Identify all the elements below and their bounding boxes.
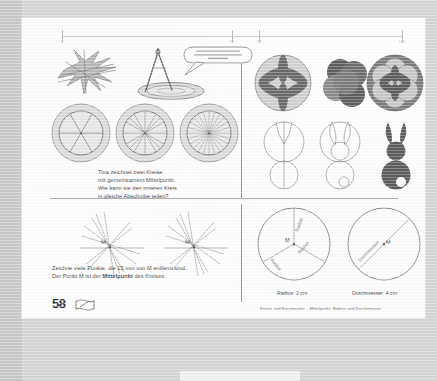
task-line-4: in gleiche Abschnitte teilen? xyxy=(98,192,233,200)
instruction-text-block: Zeichne viele Punkte, die 15 mm von M en… xyxy=(52,264,242,280)
page-number: 58 xyxy=(52,296,66,311)
scribble-star-illustration xyxy=(54,48,124,98)
left-gutter-shadow xyxy=(0,0,22,381)
instruction-line-2b: des Kreises. xyxy=(133,273,166,279)
divider-vertical-bottom xyxy=(241,204,242,302)
radius-circle-diagram: M Radius Radius Radius xyxy=(258,208,330,280)
wheel-12-spokes xyxy=(116,104,174,162)
svg-text:Radius: Radius xyxy=(294,217,304,233)
svg-text:M: M xyxy=(285,237,290,243)
screenshot-viewer: 0 50 58 100 xyxy=(0,0,437,381)
instruction-line-2: Der Punkt M ist der Mittelpunkt des Krei… xyxy=(52,272,242,280)
three-overlapping-circles-pattern xyxy=(323,59,367,107)
rabbit-filled xyxy=(382,122,411,190)
wheel-6-spokes xyxy=(52,104,110,162)
circle-pattern-row-1 xyxy=(254,52,424,118)
wheel-24-spokes xyxy=(180,104,238,162)
diameter-caption: Durchmesser: 4 cm xyxy=(352,290,397,296)
hand-pencil-icon xyxy=(74,298,96,312)
task-line-1: Tina zeichnet zwei Kreise xyxy=(98,168,233,176)
scanned-textbook-page: 0 50 58 100 xyxy=(22,18,425,318)
svg-text:M: M xyxy=(386,239,391,245)
ruler-label-58: 58 xyxy=(257,40,261,44)
instruction-mittelpunkt-bold: Mittelpunkt xyxy=(102,273,132,279)
concentric-wheel-diagrams xyxy=(50,102,240,164)
circle-pattern-row-2-rabbit-construction xyxy=(258,118,424,190)
svg-text:M: M xyxy=(101,239,106,245)
radius-and-diameter-diagrams: M Radius Radius Radius M Durchmesser xyxy=(254,204,424,284)
task-text-block: Tina zeichnet zwei Kreise mit gemeinsame… xyxy=(98,168,233,200)
instruction-line-1: Zeichne viele Punkte, die 15 mm von M en… xyxy=(52,264,242,272)
svg-text:M: M xyxy=(185,239,190,245)
task-line-3: Wie kann sie den inneren Kreis xyxy=(98,184,233,192)
horizontal-ruler: 0 50 58 100 xyxy=(62,29,402,45)
radius-caption: Radius: 2 cm xyxy=(277,290,307,296)
ruler-label-100: 100 xyxy=(399,40,406,44)
rosette-6-petal-pattern xyxy=(255,55,311,111)
rabbit-outline-step1 xyxy=(264,122,304,189)
ruler-label-0: 0 xyxy=(61,40,63,44)
footer-caption: Kreise und Kreismuster – Mittelpunkt, Ra… xyxy=(260,306,381,311)
instruction-line-2a: Der Punkt M ist der xyxy=(52,273,102,279)
bottom-white-strip xyxy=(180,371,300,381)
task-line-2: mit gemeinsamem Mittelpunkt. xyxy=(98,176,233,184)
rabbit-outline-step2 xyxy=(320,122,360,189)
flower-of-life-pattern xyxy=(367,55,423,111)
svg-text:Radius: Radius xyxy=(269,257,282,272)
diameter-circle-diagram: M Durchmesser xyxy=(348,208,420,280)
